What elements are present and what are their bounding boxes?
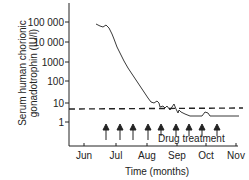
- x-axis-label: Time (months): [125, 166, 189, 177]
- svg-text:Aug: Aug: [138, 150, 156, 161]
- x-tick-labels: Jun Jul Aug Sep Oct Nov: [76, 150, 245, 161]
- svg-text:Sep: Sep: [168, 150, 186, 161]
- svg-text:100: 100: [47, 76, 64, 87]
- svg-text:1: 1: [58, 117, 64, 128]
- y-ticks: [65, 22, 69, 122]
- drug-treatment-label: Drug treatment: [158, 133, 225, 144]
- threshold-line: [69, 108, 243, 109]
- y-axis-label: Serum human chorionic gonadotrophin (IU/…: [17, 0, 39, 153]
- hcg-curve: [96, 24, 239, 116]
- svg-text:1000: 1000: [42, 57, 65, 68]
- svg-text:Oct: Oct: [198, 150, 214, 161]
- svg-text:10: 10: [53, 98, 65, 109]
- y-axis-label-line2: gonadotrophin (IU/l): [28, 0, 39, 153]
- svg-text:Jun: Jun: [76, 150, 92, 161]
- svg-text:Nov: Nov: [227, 150, 245, 161]
- y-axis-label-line1: Serum human chorionic: [17, 0, 28, 153]
- svg-text:Jul: Jul: [110, 150, 123, 161]
